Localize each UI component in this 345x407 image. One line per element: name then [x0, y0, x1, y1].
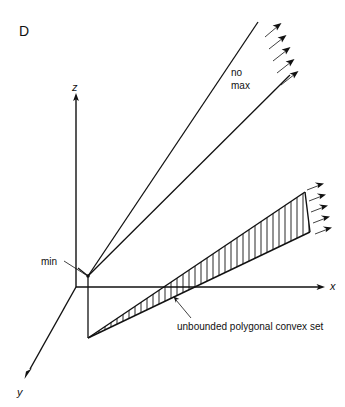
axis-group	[25, 93, 326, 379]
figure-container: D z x y min no max unbounded polygonal c…	[0, 0, 345, 407]
caption-leader-arrowhead	[174, 297, 180, 304]
no-max-direction-arrows	[265, 23, 299, 85]
min-vertex-group	[78, 268, 90, 338]
set-arrow-3	[311, 205, 328, 212]
no-max-label-line2: max	[231, 80, 250, 91]
y-axis-label: y	[16, 386, 24, 398]
y-axis	[25, 287, 77, 379]
no-max-label-line1: no	[231, 67, 243, 78]
y-axis-line	[30, 287, 76, 369]
min-label: min	[41, 256, 57, 267]
no-max-arrow-5	[281, 71, 299, 85]
z-axis-label: z	[71, 81, 78, 93]
set-arrow-2	[309, 194, 326, 201]
no-max-arrow-1	[265, 23, 282, 37]
leader-lines	[64, 261, 191, 318]
set-arrow-4	[313, 216, 330, 223]
no-max-arrow-3	[273, 47, 291, 61]
set-arrow-1	[307, 183, 324, 190]
no-max-arrow-4	[277, 59, 295, 73]
no-max-upper-ray	[88, 22, 258, 276]
set-caption-label: unbounded polygonal convex set	[177, 321, 323, 332]
z-axis	[73, 93, 79, 287]
no-max-arrow-2	[269, 35, 287, 49]
min-leader-line	[64, 261, 86, 275]
unbounded-set-arrows	[307, 183, 332, 234]
panel-letter: D	[19, 23, 29, 39]
diagram-canvas: D z x y min no max unbounded polygonal c…	[0, 0, 345, 407]
wedge-open-end	[305, 192, 310, 232]
wedge-upper-edge	[88, 192, 305, 338]
set-arrow-5	[315, 227, 332, 234]
no-max-lower-ray	[88, 75, 290, 276]
caption-leader-line	[176, 300, 191, 318]
min-vertex-tick	[78, 268, 88, 276]
y-axis-arrowhead	[25, 368, 32, 379]
x-axis-label: x	[329, 280, 336, 292]
